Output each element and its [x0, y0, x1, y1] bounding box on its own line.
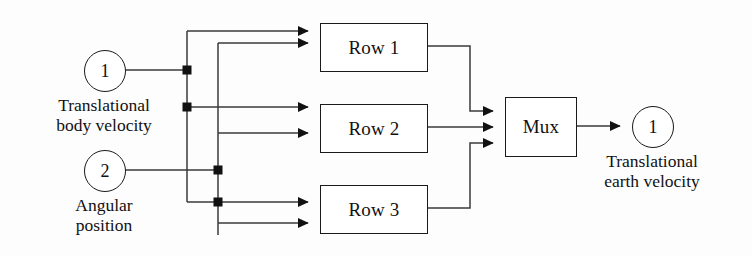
junction-dot [183, 66, 192, 75]
block-row-3-label: Row 3 [348, 199, 399, 221]
wire-row1-mux [426, 46, 493, 111]
block-row-2-label: Row 2 [348, 118, 399, 140]
input-port-1[interactable]: 1 [84, 50, 126, 92]
output-port-1-caption: Translational earth velocity [562, 151, 742, 192]
output-port-1[interactable]: 1 [632, 106, 674, 148]
wire-row3-mux [426, 143, 493, 208]
block-row-1-label: Row 1 [348, 37, 399, 59]
junction-dot [214, 198, 223, 207]
block-row-2[interactable]: Row 2 [320, 104, 428, 153]
input-port-1-caption: Translational body velocity [14, 95, 194, 136]
block-diagram-canvas: 1 Translational body velocity 2 Angular … [0, 0, 752, 256]
input-port-2-number: 2 [101, 161, 110, 182]
input-port-2-caption: Angular position [14, 195, 194, 236]
junction-dot [214, 166, 223, 175]
junction-dots [183, 66, 223, 207]
block-row-1[interactable]: Row 1 [320, 23, 428, 72]
block-mux-label: Mux [523, 116, 560, 138]
block-mux[interactable]: Mux [505, 97, 577, 157]
input-port-2[interactable]: 2 [84, 150, 126, 192]
output-port-1-number: 1 [649, 117, 658, 138]
block-row-3[interactable]: Row 3 [320, 185, 428, 234]
input-port-1-number: 1 [101, 61, 110, 82]
